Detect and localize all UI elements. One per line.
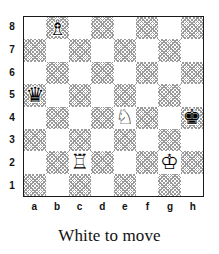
square-a5[interactable]: ♛ — [24, 84, 46, 106]
square-c1[interactable] — [69, 174, 91, 196]
square-d3[interactable] — [91, 129, 113, 151]
square-f4[interactable] — [136, 107, 158, 129]
square-e6[interactable] — [114, 62, 136, 84]
square-d2[interactable] — [91, 151, 113, 173]
file-label-row: abcdefgh — [23, 199, 204, 215]
square-a3[interactable] — [24, 129, 46, 151]
square-c5[interactable] — [69, 84, 91, 106]
rank-label-3: 3 — [4, 129, 20, 152]
square-h6[interactable] — [181, 62, 203, 84]
square-b7[interactable] — [46, 39, 68, 61]
square-f7[interactable] — [136, 39, 158, 61]
rank-label-5: 5 — [4, 84, 20, 107]
square-h5[interactable] — [181, 84, 203, 106]
rank-label-4: 4 — [4, 107, 20, 130]
square-b5[interactable] — [46, 84, 68, 106]
square-c4[interactable] — [69, 107, 91, 129]
square-f2[interactable] — [136, 151, 158, 173]
square-a4[interactable] — [24, 107, 46, 129]
square-h2[interactable] — [181, 151, 203, 173]
square-a1[interactable] — [24, 174, 46, 196]
square-h7[interactable] — [181, 39, 203, 61]
square-h4[interactable]: ♚ — [181, 107, 203, 129]
square-c3[interactable] — [69, 129, 91, 151]
white-bishop-icon[interactable]: ♗ — [48, 18, 67, 39]
square-e1[interactable] — [114, 174, 136, 196]
square-d8[interactable] — [91, 17, 113, 39]
black-queen-icon[interactable]: ♛ — [26, 85, 45, 106]
square-c6[interactable] — [69, 62, 91, 84]
square-h3[interactable] — [181, 129, 203, 151]
square-g6[interactable] — [158, 62, 180, 84]
square-d4[interactable] — [91, 107, 113, 129]
square-c2[interactable]: ♖ — [69, 151, 91, 173]
square-b8[interactable]: ♗ — [46, 17, 68, 39]
square-h1[interactable] — [181, 174, 203, 196]
square-g4[interactable] — [158, 107, 180, 129]
square-e4[interactable]: ♘ — [114, 107, 136, 129]
square-g7[interactable] — [158, 39, 180, 61]
rank-label-7: 7 — [4, 39, 20, 62]
square-b6[interactable] — [46, 62, 68, 84]
square-f6[interactable] — [136, 62, 158, 84]
square-e2[interactable] — [114, 151, 136, 173]
square-d7[interactable] — [91, 39, 113, 61]
file-label-e: e — [114, 199, 137, 215]
square-e8[interactable] — [114, 17, 136, 39]
square-b4[interactable] — [46, 107, 68, 129]
black-king-icon[interactable]: ♚ — [182, 107, 201, 128]
square-e3[interactable] — [114, 129, 136, 151]
square-b3[interactable] — [46, 129, 68, 151]
square-f1[interactable] — [136, 174, 158, 196]
square-e5[interactable] — [114, 84, 136, 106]
square-b1[interactable] — [46, 174, 68, 196]
square-g8[interactable] — [158, 17, 180, 39]
square-c7[interactable] — [69, 39, 91, 61]
file-label-d: d — [91, 199, 114, 215]
square-a8[interactable] — [24, 17, 46, 39]
square-d6[interactable] — [91, 62, 113, 84]
white-knight-icon[interactable]: ♘ — [115, 107, 134, 128]
square-f5[interactable] — [136, 84, 158, 106]
square-a2[interactable] — [24, 151, 46, 173]
rank-label-1: 1 — [4, 174, 20, 197]
file-label-h: h — [181, 199, 204, 215]
rank-label-2: 2 — [4, 152, 20, 175]
file-label-g: g — [159, 199, 182, 215]
square-h8[interactable] — [181, 17, 203, 39]
board-area: 87654321 ♗♛♘♚♖♔ abcdefgh — [0, 8, 219, 220]
chess-diagram: 87654321 ♗♛♘♚♖♔ abcdefgh White to move — [0, 0, 219, 254]
rank-label-6: 6 — [4, 61, 20, 84]
caption-white-to-move: White to move — [0, 226, 219, 246]
chess-board[interactable]: ♗♛♘♚♖♔ — [23, 16, 204, 197]
square-b2[interactable] — [46, 151, 68, 173]
square-g2[interactable]: ♔ — [158, 151, 180, 173]
square-d5[interactable] — [91, 84, 113, 106]
square-f8[interactable] — [136, 17, 158, 39]
square-g1[interactable] — [158, 174, 180, 196]
square-a7[interactable] — [24, 39, 46, 61]
file-label-b: b — [46, 199, 69, 215]
file-label-c: c — [68, 199, 91, 215]
file-label-a: a — [23, 199, 46, 215]
square-a6[interactable] — [24, 62, 46, 84]
square-d1[interactable] — [91, 174, 113, 196]
square-e7[interactable] — [114, 39, 136, 61]
white-king-icon[interactable]: ♔ — [160, 152, 179, 173]
square-c8[interactable] — [69, 17, 91, 39]
square-g5[interactable] — [158, 84, 180, 106]
rank-label-column: 87654321 — [4, 16, 20, 197]
white-rook-icon[interactable]: ♖ — [71, 152, 90, 173]
square-g3[interactable] — [158, 129, 180, 151]
rank-label-8: 8 — [4, 16, 20, 39]
file-label-f: f — [136, 199, 159, 215]
square-f3[interactable] — [136, 129, 158, 151]
